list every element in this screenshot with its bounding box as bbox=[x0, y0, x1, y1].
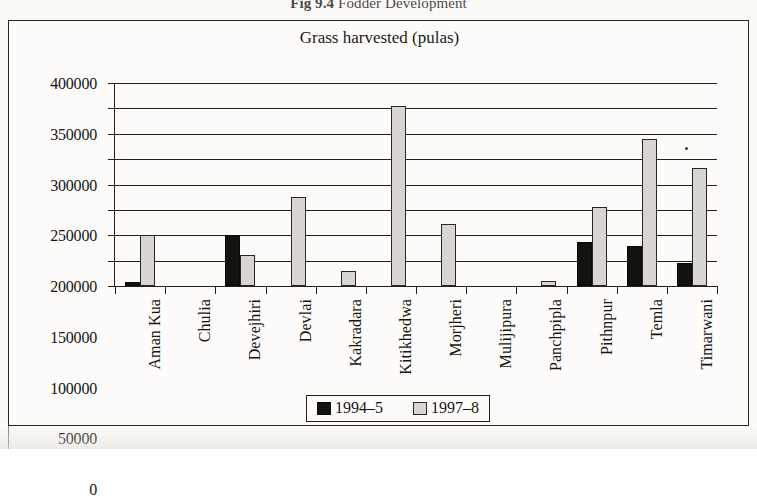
legend-swatch-icon bbox=[317, 402, 331, 415]
x-axis-tick bbox=[516, 286, 517, 294]
y-axis-tick-label: 100000 bbox=[50, 380, 97, 398]
x-axis-tick bbox=[266, 286, 267, 294]
bar-1997-8[interactable] bbox=[240, 255, 255, 286]
figure-caption: Fig 9.4 Fodder Development bbox=[0, 0, 757, 12]
x-axis-label: Mulijipura bbox=[497, 299, 515, 368]
bar-group bbox=[567, 83, 617, 286]
bar-1994-5[interactable] bbox=[225, 235, 240, 286]
y-axis-tick-label: 250000 bbox=[50, 227, 97, 245]
scan-shadow bbox=[0, 427, 757, 449]
x-axis-label: Devejhiri bbox=[246, 299, 264, 360]
legend-item[interactable]: 1997–8 bbox=[413, 399, 479, 417]
bar-group bbox=[165, 83, 215, 286]
bar-group bbox=[115, 83, 165, 286]
x-axis-label: Kitikhedwa bbox=[397, 299, 415, 375]
x-axis-tick bbox=[115, 286, 116, 294]
bar-1997-8[interactable] bbox=[441, 224, 456, 286]
y-axis-tick-label: 300000 bbox=[50, 177, 97, 195]
bar-group bbox=[466, 83, 516, 286]
y-axis-tick: 50000 bbox=[108, 261, 115, 262]
chart-legend: 1994–51997–8 bbox=[306, 395, 490, 422]
x-axis-tick bbox=[165, 286, 166, 294]
legend-item[interactable]: 1994–5 bbox=[317, 399, 383, 417]
x-axis-label: Morjheri bbox=[447, 299, 465, 357]
y-axis-tick-label: 150000 bbox=[50, 329, 97, 347]
bar-group bbox=[366, 83, 416, 286]
x-axis-label: Timarwani bbox=[698, 299, 716, 370]
legend-label: 1997–8 bbox=[431, 399, 479, 417]
bar-group bbox=[617, 83, 667, 286]
x-axis-tick bbox=[416, 286, 417, 294]
x-axis-label: Aman Kua bbox=[146, 299, 164, 370]
scan-speck bbox=[685, 147, 688, 150]
x-axis-label: Pithnpur bbox=[598, 299, 616, 355]
y-axis-tick: 350000 bbox=[108, 108, 115, 109]
x-axis-label: Kakradara bbox=[347, 299, 365, 367]
x-axis-tick bbox=[316, 286, 317, 294]
x-axis-tick bbox=[466, 286, 467, 294]
x-axis-tick bbox=[717, 286, 718, 294]
bar-1997-8[interactable] bbox=[692, 168, 707, 286]
plot-area: 4000003500003000002500002000001500001000… bbox=[115, 83, 717, 286]
x-axis-label: Chulia bbox=[196, 299, 214, 342]
bar-1997-8[interactable] bbox=[592, 207, 607, 286]
legend-swatch-icon bbox=[413, 402, 427, 415]
bar-group bbox=[266, 83, 316, 286]
y-axis-tick: 400000 bbox=[108, 83, 115, 84]
chart-title: Grass harvested (pulas) bbox=[9, 28, 750, 48]
bar-1997-8[interactable] bbox=[391, 106, 406, 286]
y-axis-tick-label: 350000 bbox=[50, 126, 97, 144]
bar-group bbox=[516, 83, 566, 286]
bar-1997-8[interactable] bbox=[291, 197, 306, 286]
x-axis-tick bbox=[366, 286, 367, 294]
x-axis-label: Devlai bbox=[297, 299, 315, 342]
figure-caption-text: Fodder Development bbox=[338, 0, 467, 11]
y-axis-tick: 0 bbox=[108, 286, 115, 287]
bar-1997-8[interactable] bbox=[341, 271, 356, 286]
bar-1994-5[interactable] bbox=[627, 246, 642, 286]
bar-group bbox=[215, 83, 265, 286]
bar-1994-5[interactable] bbox=[577, 242, 592, 286]
y-axis-tick: 150000 bbox=[108, 210, 115, 211]
bar-group bbox=[667, 83, 717, 286]
x-axis-label: Temla bbox=[648, 299, 666, 339]
bar-1997-8[interactable] bbox=[642, 139, 657, 286]
bar-group bbox=[316, 83, 366, 286]
legend-label: 1994–5 bbox=[335, 399, 383, 417]
y-axis-tick: 250000 bbox=[108, 159, 115, 160]
bar-1997-8[interactable] bbox=[140, 235, 155, 286]
y-axis-tick: 200000 bbox=[108, 185, 115, 186]
y-axis-tick-label: 0 bbox=[89, 481, 97, 499]
x-axis-tick bbox=[567, 286, 568, 294]
bar-group bbox=[416, 83, 466, 286]
y-axis-tick: 300000 bbox=[108, 134, 115, 135]
y-axis-tick-label: 400000 bbox=[50, 75, 97, 93]
x-axis-label: Panchpipla bbox=[547, 299, 565, 371]
x-axis-tick bbox=[667, 286, 668, 294]
x-axis-tick bbox=[215, 286, 216, 294]
figure-number: Fig 9.4 bbox=[290, 0, 334, 11]
chart-frame: Grass harvested (pulas) 4000003500003000… bbox=[8, 20, 749, 426]
bar-1994-5[interactable] bbox=[677, 263, 692, 286]
y-axis-tick-label: 200000 bbox=[50, 278, 97, 296]
y-axis-tick: 100000 bbox=[108, 235, 115, 236]
x-axis-tick bbox=[617, 286, 618, 294]
